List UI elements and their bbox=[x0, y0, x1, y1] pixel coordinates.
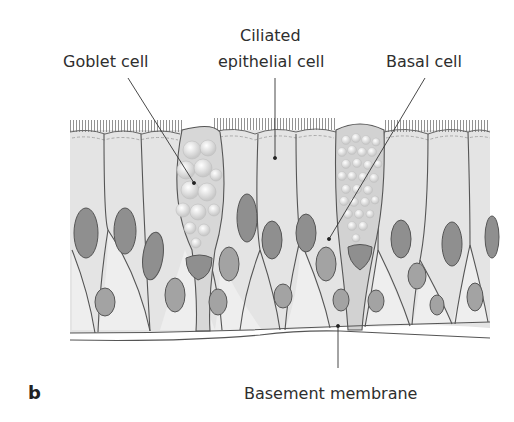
tissue-illustration bbox=[0, 0, 514, 422]
